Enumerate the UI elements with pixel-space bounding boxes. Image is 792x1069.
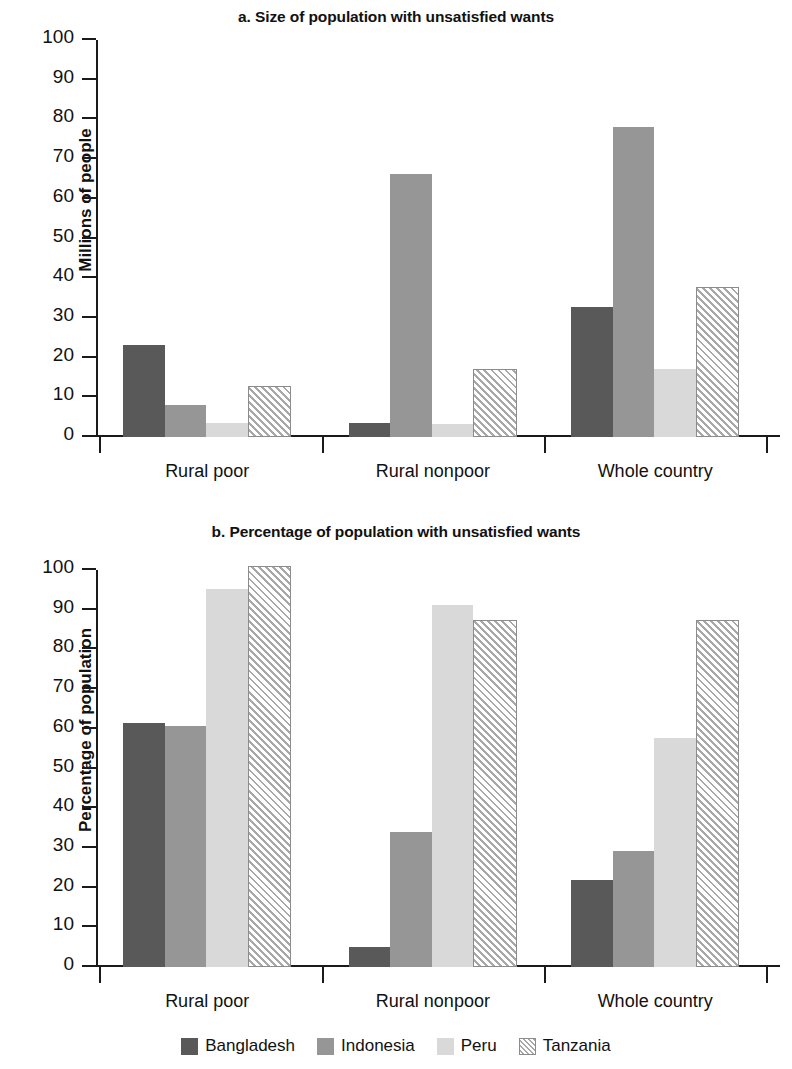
y-tick-label: 40 (53, 795, 74, 815)
bar-bangladesh-rural-nonpoor (349, 947, 390, 967)
panel-b-bar-groups: Rural poorRural nonpoorWhole country (96, 570, 780, 967)
y-tick-50: 50 (82, 767, 96, 769)
x-axis-separator-tick (544, 967, 546, 983)
y-tick-100: 100 (82, 568, 96, 570)
y-tick-0: 0 (82, 435, 96, 437)
x-axis-separator-tick (99, 437, 101, 453)
legend-item-tanzania: Tanzania (519, 1036, 611, 1056)
bar-group-bars (123, 40, 291, 437)
legend-label: Tanzania (543, 1036, 611, 1056)
bar-indonesia-rural-nonpoor (390, 832, 431, 967)
bar-peru-whole-country (654, 738, 695, 967)
legend-label: Indonesia (341, 1036, 415, 1056)
y-tick-label: 50 (53, 756, 74, 776)
y-tick-90: 90 (82, 78, 96, 80)
bar-indonesia-whole-country (613, 127, 654, 437)
chart-panel-a: a. Size of population with unsatisfied w… (0, 0, 792, 500)
bar-peru-whole-country (654, 369, 695, 437)
y-tick-60: 60 (82, 197, 96, 199)
y-tick-label: 20 (53, 345, 74, 365)
y-tick-100: 100 (82, 38, 96, 40)
y-tick-10: 10 (82, 925, 96, 927)
bar-bangladesh-whole-country (571, 880, 612, 967)
bar-tanzania-rural-nonpoor (473, 620, 516, 967)
bar-indonesia-rural-poor (165, 405, 206, 437)
x-axis-separator-tick (544, 437, 546, 453)
bar-tanzania-rural-nonpoor (473, 369, 516, 437)
bar-group-bars (571, 40, 739, 437)
bar-bangladesh-rural-poor (123, 345, 164, 438)
bar-peru-rural-poor (206, 589, 247, 967)
y-tick-label: 50 (53, 226, 74, 246)
panel-a-bar-groups: Rural poorRural nonpoorWhole country (96, 40, 780, 437)
y-tick-label: 0 (63, 954, 74, 974)
y-tick-80: 80 (82, 117, 96, 119)
panel-a-plot-area: Millions of people 010203040506070809010… (96, 40, 780, 437)
x-axis-separator-tick (322, 437, 324, 453)
legend-label: Bangladesh (205, 1036, 295, 1056)
bar-tanzania-whole-country (696, 620, 739, 967)
y-tick-label: 10 (53, 914, 74, 934)
bar-peru-rural-nonpoor (432, 605, 473, 967)
x-axis-label-whole-country: Whole country (504, 461, 792, 482)
y-tick-label: 70 (53, 676, 74, 696)
y-tick-label: 10 (53, 384, 74, 404)
y-tick-40: 40 (82, 276, 96, 278)
bar-group-bars (349, 570, 517, 967)
y-tick-10: 10 (82, 395, 96, 397)
bar-group: Whole country (571, 40, 739, 437)
x-axis-separator-tick (766, 437, 768, 453)
y-tick-0: 0 (82, 965, 96, 967)
y-tick-70: 70 (82, 687, 96, 689)
panel-b-title: b. Percentage of population with unsatis… (0, 523, 792, 541)
legend-swatch-icon-peru (437, 1038, 454, 1055)
bar-group: Rural nonpoor (349, 570, 517, 967)
y-tick-label: 30 (53, 835, 74, 855)
panel-a-y-axis-title: Millions of people (76, 120, 96, 280)
bar-indonesia-rural-poor (165, 726, 206, 967)
x-axis-label-whole-country: Whole country (504, 991, 792, 1012)
chart-legend: BangladeshIndonesiaPeruTanzania (0, 1036, 792, 1056)
panel-b-y-axis-title: Percentage of population (76, 628, 96, 832)
x-axis-separator-tick (766, 967, 768, 983)
y-tick-label: 70 (53, 146, 74, 166)
y-tick-label: 100 (42, 27, 74, 47)
bar-peru-rural-poor (206, 423, 247, 437)
panel-b-plot-area: Percentage of population 010203040506070… (96, 570, 780, 967)
y-tick-label: 90 (53, 67, 74, 87)
y-tick-label: 20 (53, 875, 74, 895)
y-tick-label: 90 (53, 597, 74, 617)
legend-swatch-icon-indonesia (317, 1038, 334, 1055)
y-tick-80: 80 (82, 647, 96, 649)
y-tick-label: 80 (53, 106, 74, 126)
y-tick-label: 80 (53, 636, 74, 656)
bar-tanzania-whole-country (696, 287, 739, 437)
bar-group: Rural poor (123, 570, 291, 967)
x-axis-separator-tick (322, 967, 324, 983)
legend-label: Peru (461, 1036, 497, 1056)
bar-peru-rural-nonpoor (432, 424, 473, 437)
legend-item-peru: Peru (437, 1036, 497, 1056)
legend-item-indonesia: Indonesia (317, 1036, 415, 1056)
y-tick-60: 60 (82, 727, 96, 729)
bar-group-bars (349, 40, 517, 437)
bar-group-bars (571, 570, 739, 967)
bar-group: Rural poor (123, 40, 291, 437)
y-tick-90: 90 (82, 608, 96, 610)
y-tick-20: 20 (82, 356, 96, 358)
y-tick-20: 20 (82, 886, 96, 888)
bar-bangladesh-rural-nonpoor (349, 423, 390, 437)
bar-group: Whole country (571, 570, 739, 967)
bar-indonesia-whole-country (613, 851, 654, 967)
chart-panel-b: b. Percentage of population with unsatis… (0, 515, 792, 1025)
y-tick-label: 60 (53, 716, 74, 736)
x-axis-separator-tick (99, 967, 101, 983)
bar-group: Rural nonpoor (349, 40, 517, 437)
legend-swatch-icon-bangladesh (181, 1038, 198, 1055)
panel-a-title: a. Size of population with unsatisfied w… (0, 8, 792, 26)
bar-indonesia-rural-nonpoor (390, 174, 431, 437)
y-tick-label: 60 (53, 186, 74, 206)
bar-bangladesh-rural-poor (123, 723, 164, 967)
y-tick-40: 40 (82, 806, 96, 808)
y-tick-50: 50 (82, 237, 96, 239)
